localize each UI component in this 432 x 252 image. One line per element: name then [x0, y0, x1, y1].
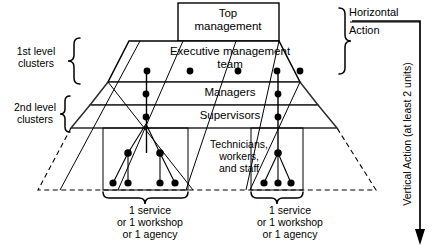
node-dot [124, 149, 132, 157]
band-label-managers: Managers [175, 86, 285, 99]
branch-left-a1 [113, 153, 128, 183]
node-dot [143, 91, 150, 98]
node-dot [260, 179, 267, 186]
unit-label-right: 1 service or 1 workshop or 1 agency [232, 205, 348, 240]
node-dot [156, 149, 164, 157]
node-dot [274, 179, 281, 186]
band-label-technicians: Technicians, workers, and staff [196, 139, 282, 174]
band-label-executive: Executive management team [140, 45, 320, 71]
vertical-action-arrowhead [415, 229, 425, 245]
horizontal-action-label: Horizontal [349, 6, 429, 18]
brace-unit-left [103, 192, 188, 204]
node-dot [171, 179, 178, 186]
node-dot [124, 179, 131, 186]
brace-first-level [68, 38, 80, 84]
node-dot [109, 179, 116, 186]
top-management-label: Top management [185, 7, 271, 33]
unit-label-left: 1 service or 1 workshop or 1 agency [92, 205, 208, 240]
bracket-label-first-level-clusters: 1st level clusters [4, 46, 68, 70]
brace-unit-right [251, 192, 303, 204]
vertical-action-label: Vertical Action (at least 2 units) [401, 49, 413, 219]
bracket-label-second-level-clusters: 2nd level clusters [2, 102, 68, 126]
band-label-supervisors: Supervisors [175, 109, 285, 122]
node-dot [287, 179, 294, 186]
node-dot [156, 179, 163, 186]
diagram-canvas: Top management Executive management team… [0, 0, 432, 252]
action-label: Action [349, 24, 429, 36]
node-group-staff-children [109, 179, 294, 186]
diagram-graphics [0, 0, 432, 252]
node-dot [143, 114, 150, 121]
